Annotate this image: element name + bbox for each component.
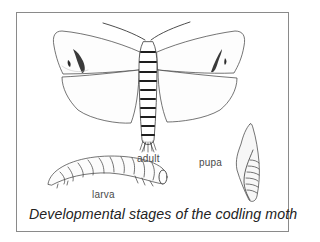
adult-moth-figure — [53, 22, 244, 152]
larva-label: larva — [92, 189, 115, 200]
pupa-figure — [236, 124, 259, 202]
adult-label: adult — [137, 153, 160, 164]
pupa-label: pupa — [199, 157, 222, 168]
figure-caption: Developmental stages of the codling moth — [29, 206, 297, 222]
